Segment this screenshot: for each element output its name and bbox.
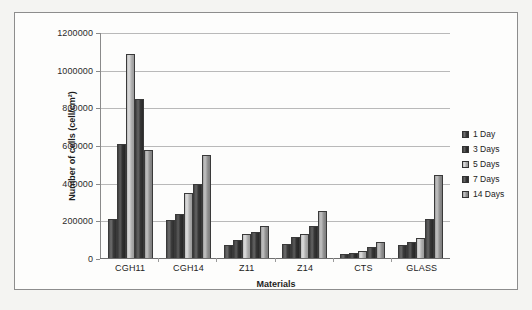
bar-cgh11-14-days (144, 150, 153, 258)
legend: 1 Day3 Days5 Days7 Days14 Days (462, 129, 504, 199)
figure: Number of cells (cell/cm²) 0200000400000… (0, 0, 532, 310)
bar-z11-3-days (233, 240, 242, 258)
legend-swatch-icon (462, 161, 469, 168)
bar-group-cgh14 (159, 33, 217, 258)
bar-z14-1-day (282, 244, 291, 258)
x-axis-title: Materials (101, 279, 451, 289)
x-label-cgh14: CGH14 (159, 263, 217, 273)
legend-label: 5 Days (473, 159, 499, 169)
bar-z11-7-days (251, 232, 260, 258)
bar-group-glass (392, 33, 450, 258)
legend-item-14-days[interactable]: 14 Days (462, 189, 504, 199)
y-tick-label: 1000000 (57, 66, 93, 76)
y-tick-mark (96, 259, 100, 260)
y-tick-label: 0 (88, 254, 93, 264)
bar-z14-5-days (300, 234, 309, 258)
legend-item-5-days[interactable]: 5 Days (462, 159, 504, 169)
bar-cts-1-day (340, 254, 349, 258)
legend-label: 1 Day (473, 129, 495, 139)
bar-cgh11-7-days (135, 99, 144, 258)
legend-item-1-day[interactable]: 1 Day (462, 129, 504, 139)
legend-label: 3 Days (473, 144, 499, 154)
y-tick-label: 1200000 (57, 28, 93, 38)
legend-swatch-icon (462, 191, 469, 198)
x-tick-mark (391, 258, 392, 262)
plot-area: 020000040000060000080000010000001200000 (100, 33, 450, 259)
bar-cts-3-days (349, 253, 358, 258)
legend-item-7-days[interactable]: 7 Days (462, 174, 504, 184)
bar-z14-14-days (318, 211, 327, 258)
bar-groups (101, 33, 450, 258)
bar-cgh14-3-days (175, 214, 184, 258)
x-axis-labels: CGH11CGH14Z11Z14CTSGLASS (101, 263, 451, 273)
legend-label: 7 Days (473, 174, 499, 184)
y-tick-label: 200000 (62, 216, 93, 226)
legend-label: 14 Days (473, 189, 504, 199)
x-label-z14: Z14 (276, 263, 334, 273)
bar-z14-3-days (291, 237, 300, 258)
y-tick-label: 600000 (62, 141, 93, 151)
bar-z11-14-days (260, 226, 269, 258)
bar-z14-7-days (309, 226, 318, 258)
bar-cts-7-days (367, 247, 376, 258)
x-tick-mark (275, 258, 276, 262)
chart-frame: Number of cells (cell/cm²) 0200000400000… (14, 12, 518, 290)
x-label-cts: CTS (334, 263, 392, 273)
bar-z11-1-day (224, 245, 233, 258)
y-tick-label: 400000 (62, 179, 93, 189)
bar-cgh11-1-day (108, 219, 117, 258)
bar-glass-5-days (416, 238, 425, 258)
bar-cgh14-5-days (184, 193, 193, 258)
legend-item-3-days[interactable]: 3 Days (462, 144, 504, 154)
legend-swatch-icon (462, 176, 469, 183)
bar-z11-5-days (242, 234, 251, 258)
bar-glass-1-day (398, 245, 407, 258)
bar-group-z11 (217, 33, 275, 258)
y-tick-label: 800000 (62, 103, 93, 113)
bar-cgh11-5-days (126, 54, 135, 258)
bar-group-z14 (276, 33, 334, 258)
bar-group-cgh11 (101, 33, 159, 258)
bar-cts-5-days (358, 251, 367, 258)
x-tick-mark (333, 258, 334, 262)
bar-cgh11-3-days (117, 144, 126, 258)
bar-glass-3-days (407, 242, 416, 258)
x-label-glass: GLASS (393, 263, 451, 273)
x-label-z11: Z11 (218, 263, 276, 273)
bar-cgh14-14-days (202, 155, 211, 258)
bar-glass-14-days (434, 175, 443, 258)
bar-cgh14-1-day (166, 220, 175, 258)
bar-glass-7-days (425, 219, 434, 258)
x-tick-mark (158, 258, 159, 262)
x-tick-mark (216, 258, 217, 262)
bar-cts-14-days (376, 242, 385, 258)
legend-swatch-icon (462, 146, 469, 153)
bar-group-cts (334, 33, 392, 258)
legend-swatch-icon (462, 131, 469, 138)
x-label-cgh11: CGH11 (101, 263, 159, 273)
bar-cgh14-7-days (193, 184, 202, 258)
